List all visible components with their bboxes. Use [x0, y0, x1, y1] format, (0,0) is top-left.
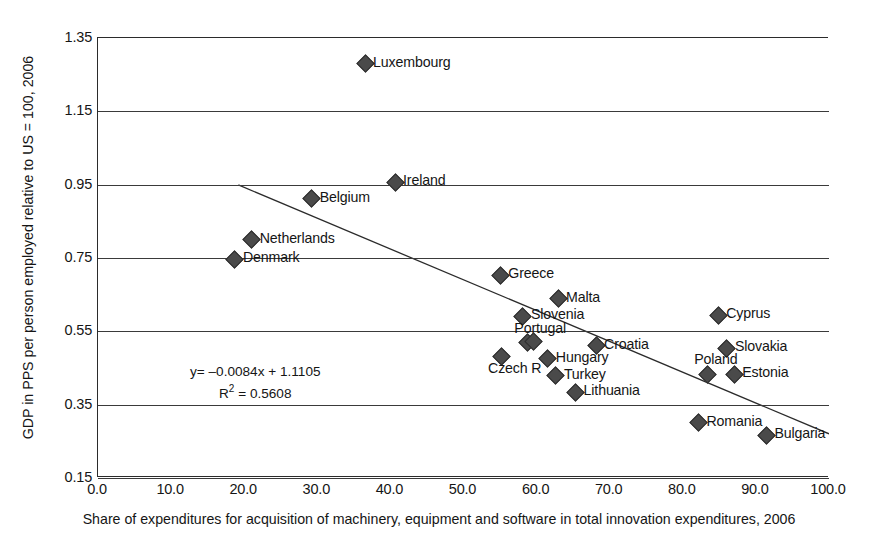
data-point-label: Portugal: [514, 321, 566, 336]
data-point-label: Turkey: [564, 367, 606, 382]
data-point-label: Luxembourg: [373, 55, 450, 70]
y-tick-label: 0.75: [40, 250, 92, 265]
data-point-marker[interactable]: [243, 231, 261, 249]
regression-equation-annotation: y= –0.0084x + 1.1105 R2 = 0.5608: [190, 363, 321, 402]
data-point-label: Croatia: [604, 337, 649, 352]
data-point-label: Czech R: [488, 361, 541, 376]
x-tick-label: 50.0: [433, 482, 493, 497]
x-tick-label: 90.0: [725, 482, 785, 497]
y-tick-label: 1.35: [40, 30, 92, 45]
data-point-label: Estonia: [742, 365, 788, 380]
x-tick-label: 100.0: [798, 482, 858, 497]
data-point-marker[interactable]: [725, 365, 743, 383]
x-axis-title: Share of expenditures for acquisition of…: [0, 512, 878, 527]
y-tick-label: 0.55: [40, 323, 92, 338]
data-point-label: Belgium: [320, 190, 370, 205]
data-point-marker[interactable]: [689, 414, 707, 432]
data-point-marker[interactable]: [303, 190, 321, 208]
data-point-marker[interactable]: [226, 250, 244, 268]
gridline: [98, 405, 829, 406]
data-point-label: Denmark: [243, 250, 300, 265]
x-tick-label: 40.0: [359, 482, 419, 497]
scatter-chart: 1.351.150.950.750.550.350.15 GDP in PPS …: [0, 0, 878, 542]
data-point-label: Lithuania: [584, 383, 640, 398]
data-point-marker[interactable]: [386, 173, 404, 191]
gridline: [98, 258, 829, 259]
x-tick-label: 80.0: [652, 482, 712, 497]
r-squared-line: R2 = 0.5608: [190, 380, 321, 402]
r-symbol: R: [219, 386, 229, 401]
y-axis-title: GDP in PPS per person employed relative …: [21, 0, 36, 508]
gridline: [98, 111, 829, 112]
data-point-label: Malta: [566, 290, 600, 305]
data-point-label: Hungary: [556, 350, 609, 365]
data-point-label: Bulgaria: [774, 426, 825, 441]
data-point-label: Cyprus: [726, 306, 770, 321]
r-squared-value: = 0.5608: [234, 386, 291, 401]
data-point-label: Romania: [706, 414, 762, 429]
data-point-marker[interactable]: [698, 365, 716, 383]
data-point-marker[interactable]: [356, 54, 374, 72]
data-point-marker[interactable]: [547, 367, 565, 385]
equation-line: y= –0.0084x + 1.1105: [190, 364, 321, 379]
data-point-label: Netherlands: [260, 231, 335, 246]
data-point-marker[interactable]: [491, 266, 509, 284]
y-axis-tick-labels: 1.351.150.950.750.550.350.15: [36, 0, 92, 542]
data-point-label: Greece: [508, 266, 554, 281]
x-tick-label: 20.0: [213, 482, 273, 497]
data-point-label: Ireland: [403, 173, 445, 188]
y-tick-label: 0.35: [40, 397, 92, 412]
x-tick-label: 30.0: [286, 482, 346, 497]
gridline: [98, 478, 829, 479]
gridline: [98, 185, 829, 186]
gridline: [98, 331, 829, 332]
data-point-label: Slovakia: [735, 339, 787, 354]
x-tick-label: 10.0: [140, 482, 200, 497]
y-tick-label: 0.95: [40, 177, 92, 192]
x-tick-label: 0.0: [67, 482, 127, 497]
y-tick-label: 1.15: [40, 103, 92, 118]
data-point-marker[interactable]: [566, 383, 584, 401]
data-point-marker[interactable]: [709, 306, 727, 324]
x-tick-label: 70.0: [579, 482, 639, 497]
x-tick-label: 60.0: [506, 482, 566, 497]
data-point-label: Poland: [694, 352, 737, 367]
plot-area: y= –0.0084x + 1.1105 R2 = 0.5608 Luxembo…: [97, 37, 828, 477]
